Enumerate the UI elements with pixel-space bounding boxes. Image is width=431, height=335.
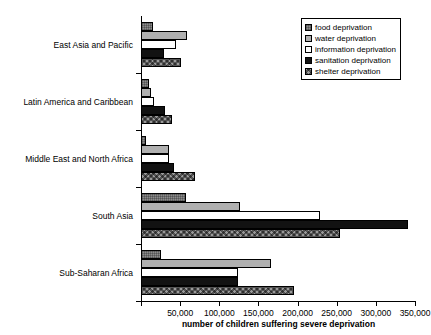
x-axis-tick-label: 300,000	[360, 308, 391, 318]
y-axis-category-labels: East Asia and PacificLatin America and C…	[0, 0, 133, 335]
legend-swatch-icon	[305, 57, 312, 64]
x-axis-tick	[337, 301, 338, 306]
legend-swatch-icon	[305, 68, 312, 75]
y-axis-tick	[136, 244, 141, 245]
bar	[141, 49, 164, 58]
legend-swatch-icon	[305, 46, 312, 53]
y-axis-category-label: Latin America and Caribbean	[23, 97, 133, 107]
legend-label: food deprivation	[315, 23, 372, 32]
bar	[141, 145, 169, 154]
x-axis-tick	[258, 301, 259, 306]
y-axis-tick	[136, 301, 141, 302]
chart-legend: food deprivationwater deprivationinforma…	[301, 18, 401, 80]
x-axis-tick	[415, 301, 416, 306]
y-axis-category-label: South Asia	[92, 211, 133, 221]
bar	[141, 202, 240, 211]
bar	[141, 220, 408, 229]
x-axis-tick-label: 200,000	[282, 308, 313, 318]
legend-item: shelter deprivation	[305, 66, 396, 76]
x-axis-line	[141, 301, 416, 302]
x-axis-tick	[376, 301, 377, 306]
bar	[141, 31, 187, 40]
legend-label: sanitation deprivation	[315, 56, 391, 65]
bar	[141, 58, 181, 67]
x-axis-tick-label: 350,000	[400, 308, 431, 318]
bar	[141, 22, 153, 31]
bar	[141, 40, 176, 49]
bar	[141, 193, 186, 202]
y-axis-tick	[136, 187, 141, 188]
legend-swatch-icon	[305, 24, 312, 31]
y-axis-category-label: East Asia and Pacific	[54, 40, 133, 50]
bar	[141, 106, 165, 115]
y-axis-tick	[136, 73, 141, 74]
legend-label: shelter deprivation	[315, 67, 380, 76]
bar	[141, 259, 271, 268]
legend-label: information deprivation	[315, 45, 396, 54]
y-axis-category-label: Sub-Saharan Africa	[59, 268, 133, 278]
x-axis-tick-label: 50,000	[167, 308, 193, 318]
bar	[141, 229, 340, 238]
x-axis-tick	[180, 301, 181, 306]
legend-swatch-icon	[305, 35, 312, 42]
bar	[141, 211, 320, 220]
bar	[141, 250, 161, 259]
x-axis-tick-label: 250,000	[321, 308, 352, 318]
bar	[141, 115, 172, 124]
y-axis-category-label: Middle East and North Africa	[25, 154, 133, 164]
bar	[141, 268, 238, 277]
bar	[141, 136, 146, 145]
legend-label: water deprivation	[315, 34, 376, 43]
bar	[141, 277, 238, 286]
legend-item: sanitation deprivation	[305, 55, 396, 65]
x-axis-tick	[141, 301, 142, 306]
legend-item: information deprivation	[305, 44, 396, 54]
bar	[141, 286, 294, 295]
bar	[141, 97, 154, 106]
x-axis-tick-label: 100,000	[204, 308, 235, 318]
x-axis-tick	[298, 301, 299, 306]
deprivation-bar-chart: East Asia and PacificLatin America and C…	[0, 0, 431, 335]
x-axis-title: number of children suffering severe depr…	[141, 319, 416, 329]
x-axis-tick-label: 150,000	[243, 308, 274, 318]
legend-item: water deprivation	[305, 33, 396, 43]
bar	[141, 88, 151, 97]
bar	[141, 172, 195, 181]
bar	[141, 163, 174, 172]
y-axis-tick	[136, 130, 141, 131]
x-axis-tick	[219, 301, 220, 306]
bar	[141, 154, 169, 163]
legend-item: food deprivation	[305, 22, 396, 32]
bar	[141, 79, 149, 88]
